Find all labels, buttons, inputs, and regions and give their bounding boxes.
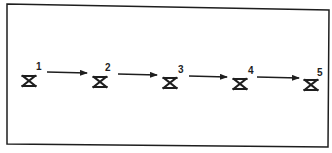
arrow-4-to-5 <box>257 77 299 78</box>
hourglass-x-icon <box>94 77 107 87</box>
node-label: 4 <box>248 65 254 76</box>
sequence-diagram: 12345 <box>0 0 332 153</box>
arrow-2-to-3 <box>118 74 157 75</box>
node-group: 12345 <box>23 61 324 90</box>
arrow-1-to-2 <box>47 72 87 73</box>
hourglass-x-icon <box>234 79 247 89</box>
hourglass-x-icon <box>23 76 36 86</box>
node-label: 5 <box>317 67 323 78</box>
arrow-3-to-4 <box>189 76 227 77</box>
hourglass-x-icon <box>305 80 318 90</box>
node-2: 2 <box>94 62 112 87</box>
hourglass-x-icon <box>164 78 177 88</box>
node-label: 2 <box>105 62 111 73</box>
node-label: 3 <box>178 64 184 75</box>
node-1: 1 <box>23 61 43 86</box>
node-3: 3 <box>164 64 185 88</box>
node-5: 5 <box>305 67 324 90</box>
diagram-frame <box>7 4 329 147</box>
node-4: 4 <box>234 65 255 89</box>
node-label: 1 <box>36 61 42 72</box>
